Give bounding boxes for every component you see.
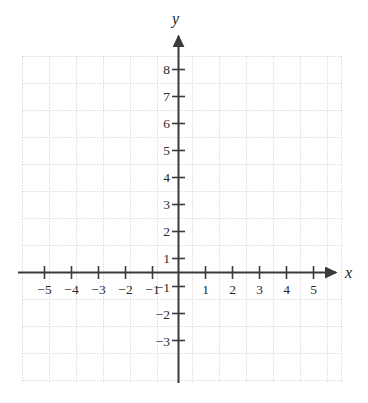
y-tick-label-7: 7 <box>158 90 170 104</box>
y-axis-label: y <box>172 11 179 27</box>
x-tick-label-4: 4 <box>277 283 296 297</box>
x-tick-label-minus-2: −2 <box>112 283 139 297</box>
x-tick-label-2: 2 <box>223 283 242 297</box>
y-tick-label-5: 5 <box>158 144 170 158</box>
x-tick-label-minus-1: −1 <box>139 283 166 297</box>
coordinate-plane-figure: 8 7 6 5 4 3 2 1 −1 −2 −3 −5 −4 −3 −2 −1 … <box>0 0 368 403</box>
y-tick-label-3: 3 <box>158 198 170 212</box>
x-tick-label-minus-3: −3 <box>85 283 112 297</box>
x-tick-label-5: 5 <box>304 283 323 297</box>
y-tick-label-8: 8 <box>158 63 170 77</box>
x-tick-label-minus-4: −4 <box>58 283 85 297</box>
x-tick-label-1: 1 <box>196 283 215 297</box>
y-tick-label-6: 6 <box>158 117 170 131</box>
x-tick-label-minus-5: −5 <box>31 283 58 297</box>
x-tick-label-3: 3 <box>250 283 269 297</box>
coordinate-grid-svg <box>0 0 368 403</box>
y-tick-label-minus-3: −3 <box>150 335 170 349</box>
y-tick-label-minus-2: −2 <box>150 308 170 322</box>
x-axis-label: x <box>345 265 352 281</box>
grid-horizontal-lines <box>23 57 342 381</box>
y-tick-label-4: 4 <box>158 171 170 185</box>
y-tick-label-1: 1 <box>158 252 170 266</box>
y-tick-label-2: 2 <box>158 225 170 239</box>
